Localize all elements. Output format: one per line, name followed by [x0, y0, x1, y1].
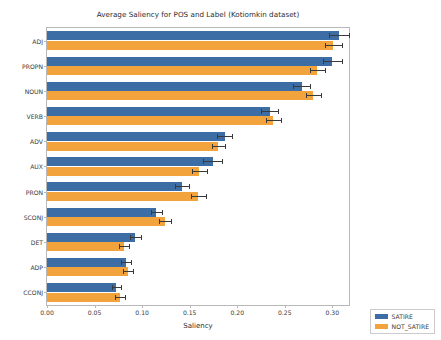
error-cap-low — [325, 43, 326, 48]
y-tick-label: ADV — [30, 138, 43, 145]
error-cap-high — [349, 33, 350, 38]
error-cap-low — [121, 260, 122, 265]
error-bar — [325, 45, 342, 46]
bar-group: NOUN — [47, 78, 349, 103]
error-cap-high — [206, 194, 207, 199]
y-tick-label: PROPN — [22, 62, 43, 69]
bar-not_satire-cconj — [47, 293, 120, 302]
legend-item[interactable]: SATIRE — [375, 313, 429, 320]
error-cap-low — [203, 159, 204, 164]
error-cap-high — [222, 159, 223, 164]
bar-not_satire-propn — [47, 66, 317, 75]
y-tick-label: AUX — [30, 163, 43, 170]
error-cap-high — [342, 59, 343, 64]
error-bar — [159, 221, 170, 222]
error-bar — [293, 86, 310, 87]
error-cap-high — [171, 219, 172, 224]
error-bar — [203, 161, 222, 162]
x-tick-mark — [142, 305, 143, 308]
x-tick-label: 0.25 — [278, 309, 292, 316]
error-cap-high — [207, 169, 208, 174]
error-cap-high — [141, 235, 142, 240]
error-cap-low — [266, 118, 267, 123]
error-cap-high — [310, 84, 311, 89]
error-cap-low — [261, 109, 262, 114]
bar-group: AUX — [47, 154, 349, 179]
x-tick-mark — [332, 305, 333, 308]
error-cap-high — [325, 68, 326, 73]
bar-group: CCONJ — [47, 280, 349, 305]
bar-group: ADV — [47, 129, 349, 154]
legend-label: SATIRE — [392, 313, 413, 320]
error-bar — [112, 287, 122, 288]
legend-item[interactable]: NOT_SATIRE — [375, 323, 429, 330]
error-bar — [191, 196, 206, 197]
error-bar — [217, 136, 232, 137]
error-cap-high — [121, 285, 122, 290]
error-bar — [266, 120, 281, 121]
error-cap-high — [125, 295, 126, 300]
x-tick-mark — [190, 305, 191, 308]
bar-not_satire-adv — [47, 142, 218, 151]
error-bar — [123, 271, 133, 272]
bar-group: DET — [47, 229, 349, 254]
error-cap-high — [232, 134, 233, 139]
bar-satire-adv — [47, 132, 225, 141]
error-bar — [121, 262, 131, 263]
error-cap-low — [115, 295, 116, 300]
x-tick-label: 0.05 — [88, 309, 102, 316]
x-tick-mark — [237, 305, 238, 308]
y-tick-label: VERB — [27, 113, 43, 120]
bar-satire-aux — [47, 157, 213, 166]
error-cap-high — [225, 144, 226, 149]
bar-satire-propn — [47, 57, 332, 66]
bar-group: VERB — [47, 104, 349, 129]
bar-not_satire-det — [47, 242, 124, 251]
x-tick-mark — [285, 305, 286, 308]
error-bar — [212, 146, 225, 147]
chart-title: Average Saliency for POS and Label (Koti… — [46, 10, 350, 19]
bar-group: PROPN — [47, 53, 349, 78]
error-bar — [175, 186, 188, 187]
legend-swatch — [375, 314, 388, 319]
error-cap-low — [191, 194, 192, 199]
error-cap-low — [159, 219, 160, 224]
x-tick-label: 0.30 — [326, 309, 340, 316]
error-cap-low — [130, 235, 131, 240]
error-cap-high — [189, 184, 190, 189]
error-cap-high — [133, 269, 134, 274]
error-bar — [323, 61, 342, 62]
y-tick-label: DET — [31, 239, 43, 246]
error-cap-low — [329, 33, 330, 38]
error-cap-low — [112, 285, 113, 290]
error-cap-low — [119, 244, 120, 249]
bar-group: ADP — [47, 255, 349, 280]
error-cap-high — [321, 93, 322, 98]
error-bar — [310, 70, 325, 71]
error-bar — [119, 246, 129, 247]
error-cap-low — [175, 184, 176, 189]
bar-satire-det — [47, 233, 135, 242]
x-tick-label: 0.20 — [230, 309, 244, 316]
bar-group: ADJ — [47, 28, 349, 53]
legend-label: NOT_SATIRE — [392, 323, 429, 330]
error-cap-low — [192, 169, 193, 174]
bar-not_satire-noun — [47, 91, 313, 100]
bar-not_satire-pron — [47, 192, 198, 201]
error-cap-low — [306, 93, 307, 98]
x-tick-mark — [95, 305, 96, 308]
error-bar — [329, 35, 350, 36]
bar-not_satire-adj — [47, 41, 333, 50]
error-cap-low — [123, 269, 124, 274]
x-tick-label: 0.10 — [135, 309, 149, 316]
plot-area: ADJPROPNNOUNVERBADVAUXPRONSCONJDETADPCCO… — [46, 27, 350, 306]
error-cap-high — [278, 109, 279, 114]
bar-not_satire-aux — [47, 167, 199, 176]
error-cap-low — [323, 59, 324, 64]
x-tick-mark — [47, 305, 48, 308]
error-cap-low — [217, 134, 218, 139]
error-cap-low — [293, 84, 294, 89]
y-tick-label: NOUN — [25, 87, 43, 94]
error-cap-high — [281, 118, 282, 123]
bar-satire-adj — [47, 31, 339, 40]
